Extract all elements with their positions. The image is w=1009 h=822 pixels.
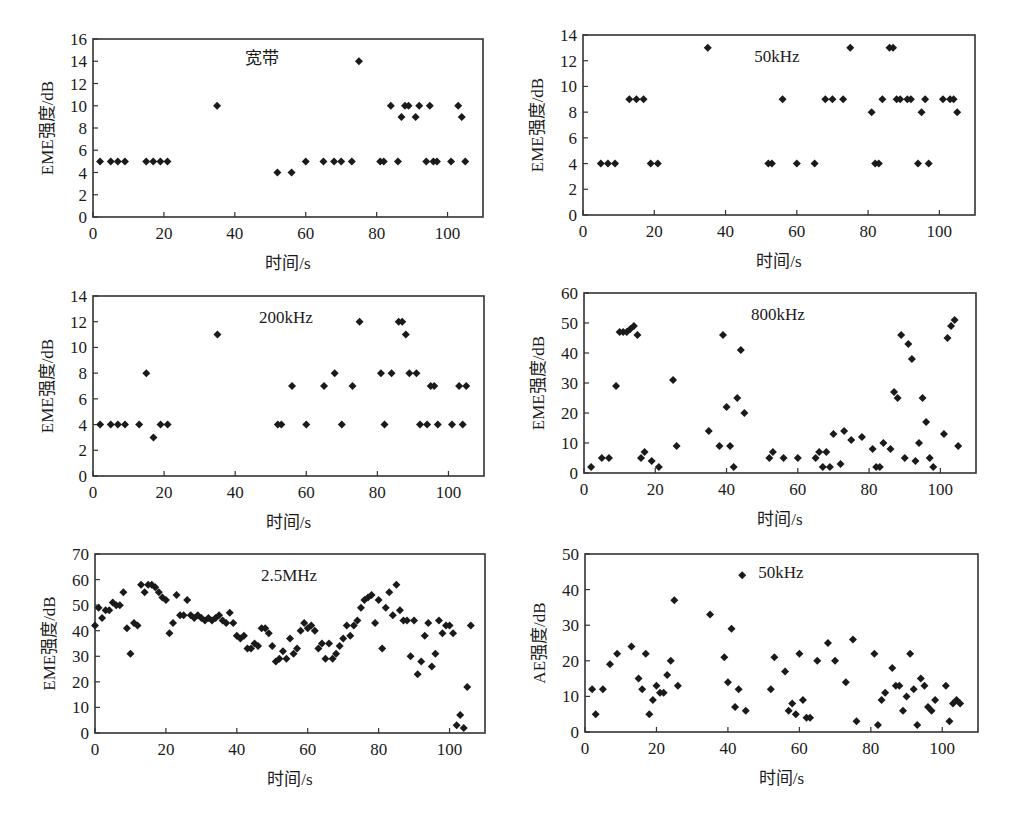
diamond-marker: [742, 707, 750, 715]
diamond-marker: [286, 634, 294, 642]
diamond-marker: [903, 692, 911, 700]
diamond-marker: [605, 454, 613, 462]
diamond-marker: [135, 421, 143, 429]
diamond-marker: [824, 639, 832, 647]
x-tick-label: 100: [437, 740, 463, 759]
x-tick-label: 40: [227, 483, 244, 502]
diamond-marker: [417, 657, 425, 665]
diamond-marker: [137, 581, 145, 589]
x-tick-label: 40: [719, 739, 736, 758]
diamond-marker: [611, 160, 619, 168]
diamond-marker: [792, 710, 800, 718]
diamond-marker: [612, 382, 620, 390]
diamond-marker: [767, 685, 775, 693]
diamond-marker: [720, 653, 728, 661]
diamond-marker: [142, 369, 150, 377]
diamond-marker: [735, 685, 743, 693]
diamond-marker: [779, 95, 787, 103]
y-axis-label: EME强度/dB: [38, 339, 57, 433]
data-points: [91, 581, 475, 732]
diamond-marker: [920, 682, 928, 690]
diamond-marker: [793, 160, 801, 168]
diamond-marker: [389, 611, 397, 619]
diamond-marker: [380, 421, 388, 429]
diamond-marker: [588, 685, 596, 693]
diamond-marker: [663, 671, 671, 679]
x-tick-label: 60: [297, 224, 314, 243]
diamond-marker: [642, 650, 650, 658]
x-axis-label: 时间/s: [757, 510, 802, 529]
diamond-marker: [604, 160, 612, 168]
y-tick-label: 4: [79, 164, 88, 183]
diamond-marker: [142, 157, 150, 165]
y-tick-label: 20: [562, 652, 579, 671]
y-tick-label: 0: [79, 467, 88, 486]
diamond-marker: [918, 108, 926, 116]
diamond-marker: [853, 717, 861, 725]
y-tick-label: 60: [72, 571, 89, 590]
x-tick-label: 60: [299, 740, 316, 759]
y-tick-label: 8: [79, 364, 88, 383]
diamond-marker: [901, 454, 909, 462]
y-tick-label: 4: [79, 416, 88, 435]
diamond-marker: [449, 629, 457, 637]
diamond-marker: [874, 721, 882, 729]
diamond-marker: [819, 463, 827, 471]
diamond-marker: [738, 571, 746, 579]
panel-title: 50kHz: [754, 47, 800, 66]
diamond-marker: [422, 157, 430, 165]
diamond-marker: [813, 657, 821, 665]
panel-title: 2.5MHz: [261, 566, 318, 585]
diamond-marker: [149, 157, 157, 165]
y-tick-label: 10: [72, 698, 89, 717]
y-tick-label: 14: [70, 52, 88, 71]
diamond-marker: [321, 655, 329, 663]
diamond-marker: [831, 657, 839, 665]
diamond-marker: [385, 588, 393, 596]
diamond-marker: [415, 102, 423, 110]
diamond-marker: [638, 685, 646, 693]
diamond-marker: [169, 619, 177, 627]
diamond-marker: [908, 355, 916, 363]
diamond-marker: [913, 721, 921, 729]
diamond-marker: [942, 682, 950, 690]
x-tick-label: 20: [647, 480, 664, 499]
x-tick-label: 0: [89, 483, 98, 502]
diamond-marker: [606, 660, 614, 668]
diamond-marker: [302, 157, 310, 165]
diamond-marker: [727, 625, 735, 633]
diamond-marker: [388, 369, 396, 377]
subplot-eme-2-5mhz: 020406080100010203040506070时间/sEME强度/dB2…: [40, 545, 485, 789]
diamond-marker: [320, 382, 328, 390]
diamond-marker: [455, 382, 463, 390]
x-tick-label: 40: [718, 480, 735, 499]
y-tick-label: 40: [72, 622, 89, 641]
diamond-marker: [288, 382, 296, 390]
diamond-marker: [914, 160, 922, 168]
diamond-marker: [837, 460, 845, 468]
y-tick-label: 0: [571, 723, 580, 742]
y-tick-label: 10: [70, 97, 87, 116]
diamond-marker: [325, 640, 333, 648]
diamond-marker: [435, 616, 443, 624]
x-tick-label: 80: [861, 480, 878, 499]
diamond-marker: [799, 696, 807, 704]
diamond-marker: [226, 609, 234, 617]
diamond-marker: [781, 667, 789, 675]
diamond-marker: [715, 442, 723, 450]
y-tick-label: 0: [569, 206, 578, 225]
diamond-marker: [461, 157, 469, 165]
diamond-marker: [339, 634, 347, 642]
diamond-marker: [922, 418, 930, 426]
diamond-marker: [647, 160, 655, 168]
subplot-eme-50khz: 02040608010002468101214时间/sEME强度/dB50kHz: [528, 26, 975, 271]
y-tick-label: 20: [72, 673, 89, 692]
diamond-marker: [91, 622, 99, 630]
y-tick-label: 8: [79, 119, 88, 138]
x-tick-label: 0: [89, 224, 98, 243]
diamond-marker: [858, 433, 866, 441]
diamond-marker: [213, 331, 221, 339]
y-tick-label: 20: [561, 404, 578, 423]
diamond-marker: [414, 670, 422, 678]
x-tick-label: 40: [226, 224, 243, 243]
